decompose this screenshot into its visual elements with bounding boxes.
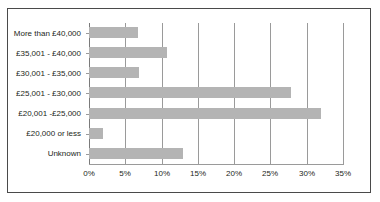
category-label-row: Unknown — [8, 144, 85, 164]
category-axis-labels: More than £40,000 £35,001 - £40,000 £30,… — [8, 23, 85, 164]
category-label: More than £40,000 — [14, 29, 85, 38]
x-tick-label: 25% — [262, 169, 278, 178]
bar-row — [89, 104, 343, 124]
x-tick-label: 10% — [154, 169, 170, 178]
category-label-row: £30,001 - £35,000 — [8, 63, 85, 83]
bar-row — [89, 63, 343, 83]
category-label: £25,001 - £30,000 — [16, 89, 85, 98]
bar-unknown — [89, 148, 183, 159]
bar-row — [89, 83, 343, 103]
bar-row — [89, 124, 343, 144]
bar-30001-35000 — [89, 67, 139, 78]
x-tick-label: 15% — [190, 169, 206, 178]
chart-frame: More than £40,000 £35,001 - £40,000 £30,… — [7, 8, 371, 193]
bar-35001-40000 — [89, 47, 167, 58]
category-label: £20,001 -£25,000 — [18, 109, 85, 118]
bar-20000-or-less — [89, 128, 103, 139]
plot-area — [89, 23, 343, 164]
x-tick-label: 0% — [83, 169, 95, 178]
bar-row — [89, 23, 343, 43]
gridline-35 — [343, 23, 344, 164]
x-tick-label: 30% — [299, 169, 315, 178]
category-label-row: £20,001 -£25,000 — [8, 104, 85, 124]
category-label: £20,000 or less — [26, 129, 85, 138]
x-axis-tick-labels: 0% 5% 10% 15% 20% 25% 30% 35% — [89, 169, 343, 183]
bar-more-than-40000 — [89, 27, 138, 38]
category-label: £35,001 - £40,000 — [16, 49, 85, 58]
x-axis-line — [89, 164, 344, 165]
bar-20001-25000 — [89, 108, 321, 119]
category-label-row: £25,001 - £30,000 — [8, 83, 85, 103]
category-label-row: £20,000 or less — [8, 124, 85, 144]
bar-row — [89, 43, 343, 63]
bar-row — [89, 144, 343, 164]
category-label-row: £35,001 - £40,000 — [8, 43, 85, 63]
bar-25001-30000 — [89, 87, 291, 98]
category-label: Unknown — [48, 149, 85, 158]
x-tick-label: 20% — [226, 169, 242, 178]
category-label: £30,001 - £35,000 — [16, 69, 85, 78]
x-tick-label: 35% — [335, 169, 351, 178]
category-label-row: More than £40,000 — [8, 23, 85, 43]
x-tick-label: 5% — [119, 169, 131, 178]
